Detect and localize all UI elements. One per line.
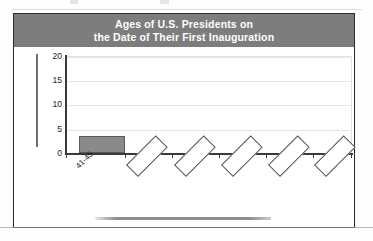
y-axis-tick-labels: 20 15 10 5 0 bbox=[14, 56, 62, 153]
gridline-15 bbox=[66, 81, 351, 82]
x-tick-2 bbox=[172, 153, 173, 158]
y-tick-label-5: 5 bbox=[18, 124, 62, 134]
x-tick-3 bbox=[219, 153, 220, 158]
scan-artifact bbox=[160, 0, 169, 4]
chart-title-line-1: Ages of U.S. Presidents on bbox=[115, 18, 253, 31]
gridline-20 bbox=[66, 57, 351, 58]
x-tick-0 bbox=[66, 153, 67, 158]
page-hairline bbox=[12, 9, 362, 10]
chart-title-line-2: the Date of Their First Inauguration bbox=[94, 31, 274, 44]
gridline-5 bbox=[66, 130, 351, 131]
y-tick-label-20: 20 bbox=[18, 51, 62, 61]
x-tick-1 bbox=[125, 153, 126, 158]
bottom-hairline bbox=[0, 227, 373, 228]
chart-title-banner: Ages of U.S. Presidents on the Date of T… bbox=[14, 14, 354, 47]
y-axis-line bbox=[65, 55, 67, 154]
gridline-10 bbox=[66, 105, 351, 106]
figure-root: Ages of U.S. Presidents on the Date of T… bbox=[0, 0, 373, 241]
bottom-rule bbox=[95, 217, 271, 220]
x-tick-4 bbox=[266, 153, 267, 158]
scan-artifact bbox=[70, 0, 78, 4]
chart-area: 20 15 10 5 0 41-45 bbox=[14, 47, 354, 227]
x-tick-5 bbox=[313, 153, 314, 158]
y-tick-label-0: 0 bbox=[18, 148, 62, 158]
y-tick-label-15: 15 bbox=[18, 75, 62, 85]
x-tick-6 bbox=[351, 153, 352, 158]
y-tick-label-10: 10 bbox=[18, 99, 62, 109]
plot-area bbox=[66, 56, 352, 153]
